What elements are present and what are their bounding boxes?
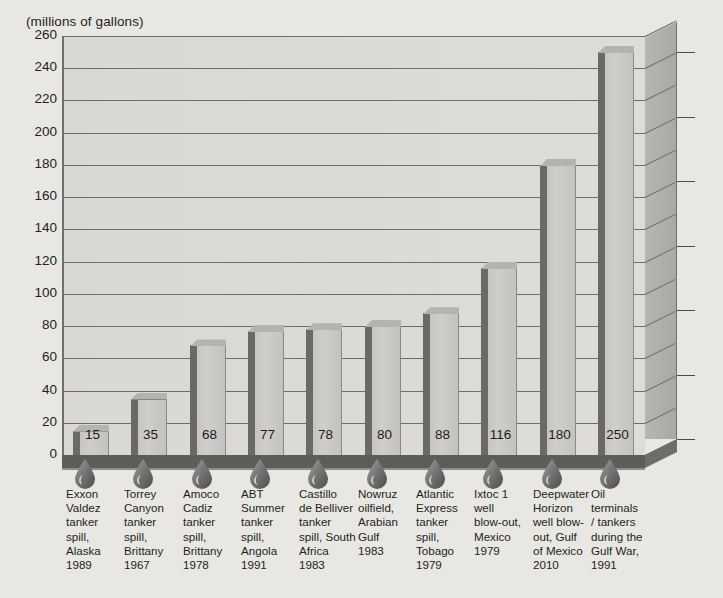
x-axis-label-line: 2010 <box>533 558 599 572</box>
bar-value-label: 77 <box>251 427 284 442</box>
y-tick-mark-160 <box>677 181 695 182</box>
x-axis-label-line: Exxon <box>66 487 132 501</box>
x-axis-label-line: Arabian <box>358 515 424 529</box>
bar-value-label: 180 <box>543 427 576 442</box>
x-axis-label-line: 1991 <box>241 558 307 572</box>
x-axis-label-line: Gulf <box>358 530 424 544</box>
gridline-260 <box>62 36 645 37</box>
x-axis-label-line: Tobago <box>416 544 482 558</box>
x-axis-label-line: during the <box>591 530 657 544</box>
y-tick-label-20: 20 <box>5 414 57 429</box>
x-axis-label-line: Express <box>416 501 482 515</box>
bar <box>598 52 634 455</box>
x-axis-label: ABTSummertankerspill,Angola1991 <box>241 487 307 572</box>
x-axis-label-line: 1989 <box>66 558 132 572</box>
x-axis-label-line: tanker <box>299 515 365 529</box>
x-axis-label-line: spill, <box>241 530 307 544</box>
x-axis-label-line: 1983 <box>358 544 424 558</box>
y-tick-mark-80 <box>677 310 695 311</box>
x-axis-label-line: 1978 <box>183 558 249 572</box>
bar <box>540 165 576 455</box>
y-tick-label-220: 220 <box>5 91 57 106</box>
oil-drop-icon <box>191 459 213 489</box>
y-tick-label-40: 40 <box>5 382 57 397</box>
gridline-220 <box>62 100 645 101</box>
x-axis-label-line: Oil <box>591 487 657 501</box>
x-axis-label-line: 1979 <box>416 558 482 572</box>
x-axis-label-line: spill, <box>124 530 190 544</box>
x-axis-label-line: Angola <box>241 544 307 558</box>
x-axis-label-line: Valdez <box>66 501 132 515</box>
oil-drop-icon <box>249 459 271 489</box>
x-axis-label-line: Alaska <box>66 544 132 558</box>
bar-value-label: 68 <box>193 427 226 442</box>
x-axis-label-line: of Mexico <box>533 544 599 558</box>
y-tick-mark-0 <box>677 439 695 440</box>
oil-drop-icon <box>366 459 388 489</box>
x-axis-label-line: 1991 <box>591 558 657 572</box>
x-axis-label-line: Horizon <box>533 501 599 515</box>
bar-value-label: 116 <box>484 427 517 442</box>
bar-value-label: 250 <box>601 427 634 442</box>
x-axis-label-line: spill, <box>416 530 482 544</box>
x-axis-label: TorreyCanyontankerspill,Brittany1967 <box>124 487 190 572</box>
x-axis-label-line: Deepwater <box>533 487 599 501</box>
y-tick-label-0: 0 <box>5 446 57 461</box>
x-axis-label-line: / tankers <box>591 515 657 529</box>
oil-drop-icon <box>599 459 621 489</box>
plot-floor-right <box>645 439 677 468</box>
x-axis-label: Nowruzoilfield,ArabianGulf1983 <box>358 487 424 558</box>
x-axis-label-line: Castillo <box>299 487 365 501</box>
y-tick-label-100: 100 <box>5 285 57 300</box>
oil-drop-icon <box>482 459 504 489</box>
x-axis-label-line: Africa <box>299 544 365 558</box>
x-axis-label-line: Brittany <box>124 544 190 558</box>
gridline-200 <box>62 133 645 134</box>
y-tick-label-260: 260 <box>5 27 57 42</box>
x-axis-label-line: Mexico <box>474 530 540 544</box>
oil-drop-icon <box>132 459 154 489</box>
x-axis-label: Ixtoc 1wellblow-out,Mexico1979 <box>474 487 540 558</box>
y-tick-mark-40 <box>677 375 695 376</box>
x-axis-label-line: spill, <box>183 530 249 544</box>
y-axis-tick-labels: 020406080100120140160180200220240260 <box>0 0 57 598</box>
x-axis-label-line: 1983 <box>299 558 365 572</box>
x-axis-label-line: Canyon <box>124 501 190 515</box>
x-axis-label-line: spill, South <box>299 530 365 544</box>
x-axis-label: Castillode Bellivertankerspill, SouthAfr… <box>299 487 365 572</box>
x-axis-label-line: out, Gulf <box>533 530 599 544</box>
x-axis-label-line: well <box>474 501 540 515</box>
x-axis-label-line: spill, <box>66 530 132 544</box>
y-tick-label-80: 80 <box>5 317 57 332</box>
x-axis-label-line: tanker <box>124 515 190 529</box>
x-axis-label: DeepwaterHorizonwell blow-out, Gulfof Me… <box>533 487 599 572</box>
x-axis-label-line: Amoco <box>183 487 249 501</box>
y-tick-mark-200 <box>677 117 695 118</box>
y-tick-label-60: 60 <box>5 349 57 364</box>
x-axis-label-line: Nowruz <box>358 487 424 501</box>
y-tick-mark-240 <box>677 52 695 53</box>
y-tick-label-120: 120 <box>5 253 57 268</box>
oil-drop-icon <box>307 459 329 489</box>
oil-drop-icon <box>541 459 563 489</box>
x-axis-label-line: terminals <box>591 501 657 515</box>
bar-value-label: 80 <box>368 427 401 442</box>
x-axis-label: AmocoCadiztankerspill,Brittany1978 <box>183 487 249 572</box>
y-tick-label-140: 140 <box>5 220 57 235</box>
bar-value-label: 78 <box>309 427 342 442</box>
x-axis-label-line: Cadiz <box>183 501 249 515</box>
x-axis-label-line: ABT <box>241 487 307 501</box>
x-axis-label-line: tanker <box>241 515 307 529</box>
x-axis-label-line: tanker <box>183 515 249 529</box>
bar-value-label: 35 <box>134 427 167 442</box>
x-axis-label-line: 1979 <box>474 544 540 558</box>
bar-value-label: 15 <box>76 427 109 442</box>
x-axis-label-line: Summer <box>241 501 307 515</box>
x-axis-label-line: blow-out, <box>474 515 540 529</box>
oil-drop-icon <box>424 459 446 489</box>
x-axis-label-line: well blow- <box>533 515 599 529</box>
x-axis-label: ExxonValdeztankerspill,Alaska1989 <box>66 487 132 572</box>
x-axis-label-line: Torrey <box>124 487 190 501</box>
y-tick-label-200: 200 <box>5 124 57 139</box>
x-axis-label-line: Brittany <box>183 544 249 558</box>
